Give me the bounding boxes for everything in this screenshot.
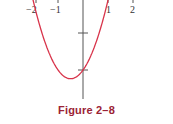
- figure-caption: Figure 2–8: [0, 104, 173, 116]
- x-tick-label: −1: [50, 4, 61, 15]
- parabola-curve: [29, 0, 111, 79]
- x-tick-label: 2: [130, 4, 135, 15]
